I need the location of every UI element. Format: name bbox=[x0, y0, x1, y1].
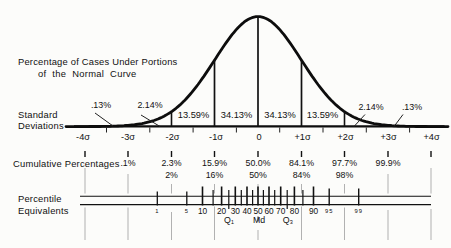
cum-rounded-zero: 50% bbox=[249, 171, 267, 180]
cum-pct-zero: 50.0% bbox=[246, 159, 271, 168]
percentile-row-label-line1: Percentile bbox=[18, 194, 62, 203]
sd-tick-pos3: +3σ bbox=[380, 133, 396, 142]
sd-tick-neg2: -2σ bbox=[166, 133, 180, 142]
cum-rounded-pos1: 84% bbox=[293, 171, 311, 180]
region-pct-neg1: 34.13% bbox=[221, 111, 253, 120]
cum-pct-pos1: 84.1% bbox=[289, 159, 314, 168]
quartile-label-q3: Q₃ bbox=[283, 216, 293, 225]
cum-rounded-neg2: 2% bbox=[165, 171, 178, 180]
cum-rounded-neg1: 16% bbox=[206, 171, 224, 180]
cum-pct-neg1: 15.9% bbox=[202, 159, 227, 168]
percentile-label-5: 5 bbox=[185, 209, 189, 215]
percentile-label-1: 1 bbox=[155, 209, 159, 215]
percentile-label-10: 10 bbox=[198, 207, 207, 215]
cumulative-row-label: Cumulative Percentages bbox=[13, 159, 120, 168]
percentile-label-99: 99 bbox=[354, 209, 362, 215]
region-pct-pos4: .13% bbox=[402, 103, 422, 112]
sd-tick-neg4: -4σ bbox=[76, 133, 90, 142]
cum-pct-pos2: 97.7% bbox=[332, 159, 357, 168]
region-pct-neg2: 13.59% bbox=[178, 111, 210, 120]
region-pct-pos3: 2.14% bbox=[358, 103, 383, 112]
cum-rounded-pos2: 98% bbox=[336, 171, 354, 180]
sd-tick-pos1: +1σ bbox=[294, 133, 310, 142]
sd-tick-pos2: +2σ bbox=[337, 133, 353, 142]
percentile-label-90: 90 bbox=[309, 207, 318, 215]
region-pct-pos2: 13.59% bbox=[307, 111, 339, 120]
cum-pct-neg2: 2.3% bbox=[161, 159, 181, 168]
percentile-label-95: 95 bbox=[325, 209, 333, 215]
cumulative-row-ticks bbox=[85, 151, 431, 157]
sd-tick-neg1: -1σ bbox=[209, 133, 223, 142]
quartile-label-median: Md bbox=[253, 216, 265, 225]
figure-title-line1: Percentage of Cases Under Portions bbox=[18, 57, 178, 66]
percentile-row-label-line2: Equivalents bbox=[18, 206, 69, 215]
sd-tick-zero: 0 bbox=[256, 133, 261, 142]
region-pct-neg3: 2.14% bbox=[137, 101, 162, 110]
sd-axis-label-line1: Standard bbox=[18, 110, 58, 119]
percentile-label-40: 40 bbox=[242, 207, 251, 215]
sd-axis-label-line2: Deviations bbox=[18, 121, 64, 130]
figure-title-line2: of the Normal Curve bbox=[38, 69, 137, 78]
normal-curve-figure: Percentage of Cases Under Portions of th… bbox=[0, 0, 451, 248]
cum-pct-pos3: 99.9% bbox=[376, 159, 401, 168]
percentile-label-60: 60 bbox=[264, 207, 273, 215]
region-pct-pos1: 34.13% bbox=[264, 111, 296, 120]
region-pct-neg4: .13% bbox=[91, 101, 111, 110]
sd-tick-pos4: +4σ bbox=[423, 133, 439, 142]
quartile-label-q1: Q₁ bbox=[224, 216, 234, 225]
cum-pct-neg3: .1% bbox=[120, 159, 135, 168]
sd-tick-neg3: -3σ bbox=[121, 133, 135, 142]
